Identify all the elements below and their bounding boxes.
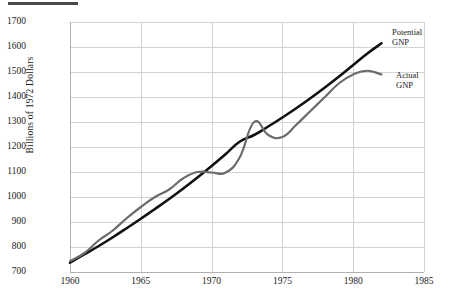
x-tick-label: 1985	[404, 276, 444, 286]
gridline-vertical	[424, 22, 425, 272]
series-label-potential-gnp: Potential GNP	[392, 27, 422, 47]
y-tick-label: 1200	[0, 142, 26, 152]
top-rule-mark	[8, 2, 78, 5]
y-tick-label: 1000	[0, 192, 26, 202]
gridline-horizontal	[70, 272, 424, 273]
plot-area	[70, 22, 424, 272]
series-line-actual-gnp	[70, 71, 382, 261]
y-axis-title: Billions of 1972 Dollars	[25, 5, 35, 205]
x-tick-label: 1975	[262, 276, 302, 286]
y-tick-label: 1300	[0, 117, 26, 127]
y-tick-label: 1600	[0, 42, 26, 52]
y-tick-label: 800	[0, 242, 26, 252]
series-label-actual-gnp: Actual GNP	[396, 70, 419, 90]
y-tick-label: 900	[0, 217, 26, 227]
y-tick-label: 700	[0, 267, 26, 277]
x-tick-label: 1965	[121, 276, 161, 286]
series-layer	[70, 22, 424, 272]
y-tick-label: 1700	[0, 17, 26, 27]
x-tick-label: 1980	[333, 276, 373, 286]
series-line-potential-gnp	[70, 43, 382, 263]
gnp-chart-figure: Billions of 1972 Dollars 170016001500140…	[0, 0, 460, 302]
x-tick-label: 1960	[50, 276, 90, 286]
x-tick-label: 1970	[192, 276, 232, 286]
y-tick-label: 1100	[0, 167, 26, 177]
y-tick-label: 1400	[0, 92, 26, 102]
y-tick-label: 1500	[0, 67, 26, 77]
